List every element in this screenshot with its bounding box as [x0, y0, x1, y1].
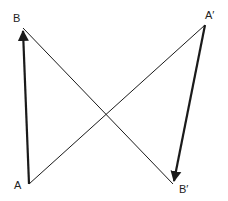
label-a: A	[14, 179, 22, 191]
label-b-prime: B′	[179, 183, 188, 195]
line-b-to-b-prime	[23, 28, 173, 184]
rotation-diagram: B A′ A B′	[0, 0, 228, 201]
vector-a-to-b	[23, 31, 29, 184]
label-b: B	[13, 12, 20, 24]
label-a-prime: A′	[205, 9, 214, 21]
